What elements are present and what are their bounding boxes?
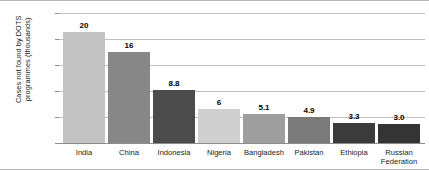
y-tick-mark-400 — [55, 39, 59, 40]
y-tick-mark-0 — [55, 143, 59, 144]
bar-value-label: 8.8 — [168, 79, 179, 88]
bar: 4.9 — [288, 117, 330, 143]
bar: 3.3 — [333, 123, 375, 143]
gridline-400 — [59, 39, 425, 40]
bar-value-label: 5.1 — [258, 103, 269, 112]
y-tick-mark-100 — [55, 117, 59, 118]
y-tick-mark-200 — [55, 91, 59, 92]
bar: 5.1 — [243, 114, 285, 143]
bar-value-label: 20 — [80, 21, 89, 30]
x-axis-category-label: Russian Federation — [366, 148, 429, 167]
bar-value-label: 16 — [125, 41, 134, 50]
bar: 6 — [198, 109, 240, 143]
bar-chart-figure: Cases not found by DOTS programmes (thou… — [0, 0, 429, 170]
bar-value-label: 3.0 — [393, 113, 404, 122]
gridline-500 — [59, 13, 425, 14]
plot-area: 010020030040050020168.865.14.93.33.0 — [59, 13, 425, 143]
bar: 8.8 — [153, 90, 195, 143]
bar: 16 — [108, 52, 150, 143]
bar-value-label: 3.3 — [348, 112, 359, 121]
y-tick-mark-300 — [55, 65, 59, 66]
y-axis-title: Cases not found by DOTS programmes (thou… — [14, 0, 33, 129]
y-tick-mark-500 — [55, 13, 59, 14]
bar-value-label: 4.9 — [303, 106, 314, 115]
bar: 20 — [63, 32, 105, 143]
bar: 3.0 — [378, 124, 420, 144]
gridline-0 — [59, 143, 425, 144]
bar-value-label: 6 — [217, 98, 221, 107]
